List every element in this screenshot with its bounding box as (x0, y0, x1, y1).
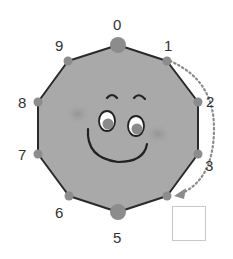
vertex-dot-1 (163, 57, 172, 66)
vertex-dot-9 (64, 57, 73, 66)
vertex-dot-2 (194, 98, 203, 107)
label-5: 5 (113, 229, 121, 246)
label-2: 2 (206, 93, 214, 110)
label-8: 8 (18, 94, 26, 111)
label-7: 7 (18, 146, 26, 163)
label-3: 3 (205, 157, 213, 174)
arrowhead-icon (174, 188, 186, 199)
left-pupil (103, 119, 114, 130)
left-cheek (64, 103, 92, 125)
label-0: 0 (113, 16, 121, 33)
vertex-dot-3 (194, 150, 203, 159)
label-9: 9 (55, 37, 63, 54)
answer-box[interactable] (172, 206, 206, 241)
vertex-dot-6 (65, 192, 74, 201)
vertex-dot-7 (34, 150, 43, 159)
right-pupil (132, 124, 143, 135)
vertex-dot-0 (110, 37, 126, 53)
vertex-dot-5 (110, 204, 126, 220)
label-6: 6 (55, 204, 63, 221)
vertex-dot-4 (163, 192, 172, 201)
decagon-face (38, 45, 198, 212)
right-cheek (144, 123, 172, 145)
vertex-dot-8 (34, 98, 43, 107)
label-1: 1 (164, 37, 172, 54)
